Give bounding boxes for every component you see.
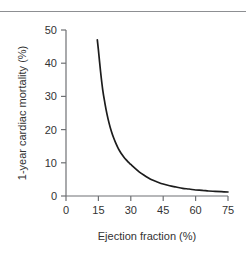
x-tick-label-1: 15 [92, 204, 104, 216]
mortality-curve [97, 40, 228, 192]
x-tick-label-3: 45 [157, 204, 169, 216]
x-tick-label-4: 60 [189, 204, 201, 216]
y-tick-label-0: 0 [51, 190, 57, 202]
x-tick-label-0: 0 [63, 204, 69, 216]
y-tick-label-5: 50 [45, 24, 57, 36]
line-chart: 0 10 20 30 40 50 0 15 30 45 60 75 Ejecti… [0, 0, 246, 256]
x-tick-marks [66, 196, 228, 201]
y-tick-label-1: 10 [45, 157, 57, 169]
y-tick-label-3: 30 [45, 90, 57, 102]
x-tick-label-5: 75 [222, 204, 234, 216]
x-axis-title: Ejection fraction (%) [98, 230, 196, 242]
y-tick-marks [61, 30, 66, 196]
y-tick-label-2: 20 [45, 124, 57, 136]
chart-figure: 0 10 20 30 40 50 0 15 30 45 60 75 Ejecti… [0, 0, 246, 256]
y-axis-title: 1-year cardiac mortality (%) [16, 46, 28, 180]
x-tick-label-2: 30 [125, 204, 137, 216]
y-tick-label-4: 40 [45, 57, 57, 69]
